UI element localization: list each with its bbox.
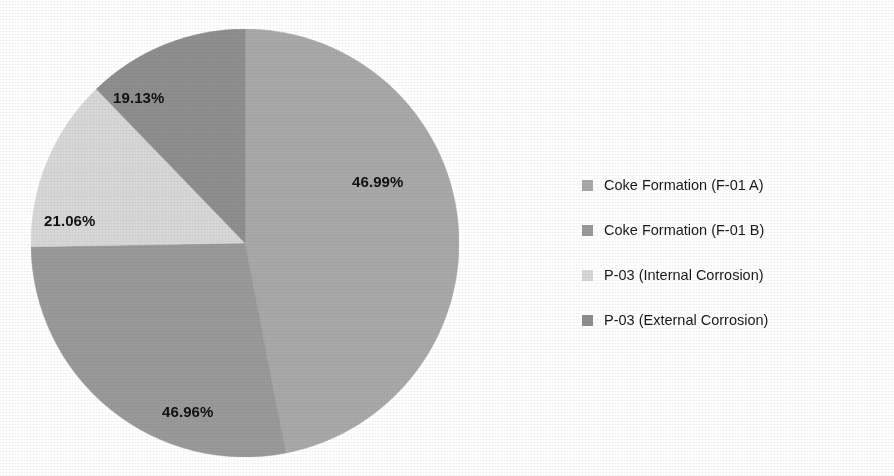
legend-label-2: P-03 (Internal Corrosion) (604, 268, 764, 283)
legend-swatch-icon-0 (582, 180, 593, 191)
legend-swatch-icon-2 (582, 270, 593, 281)
pie-chart-graphic (31, 29, 459, 457)
pie-slice-coke-formation-f01b[interactable] (31, 243, 286, 457)
pie-slice-group (31, 29, 459, 457)
legend-label-3: P-03 (External Corrosion) (604, 313, 768, 328)
legend-item-p03-external-corrosion[interactable]: P-03 (External Corrosion) (582, 298, 882, 343)
legend-item-p03-internal-corrosion[interactable]: P-03 (Internal Corrosion) (582, 253, 882, 298)
pie-chart-figure: 46.99%46.96%21.06%19.13% Coke Formation … (0, 0, 894, 476)
pie-slice-coke-formation-f01a[interactable] (245, 29, 459, 453)
pie-slice-value-p03-external-corrosion: 19.13% (113, 89, 164, 106)
pie-slice-value-coke-formation-f01a: 46.99% (352, 173, 403, 190)
legend-item-coke-formation-f01b[interactable]: Coke Formation (F-01 B) (582, 208, 882, 253)
legend-label-0: Coke Formation (F-01 A) (604, 178, 764, 193)
pie-slice-value-p03-internal-corrosion: 21.06% (44, 212, 95, 229)
legend-swatch-icon-1 (582, 225, 593, 236)
chart-legend: Coke Formation (F-01 A) Coke Formation (… (582, 163, 882, 343)
pie-slice-value-coke-formation-f01b: 46.96% (162, 403, 213, 420)
legend-label-1: Coke Formation (F-01 B) (604, 223, 764, 238)
legend-item-coke-formation-f01a[interactable]: Coke Formation (F-01 A) (582, 163, 882, 208)
legend-swatch-icon-3 (582, 315, 593, 326)
pie-svg (31, 29, 459, 457)
